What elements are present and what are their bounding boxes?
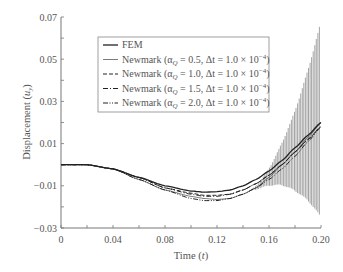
x-tick-label: 0.12 xyxy=(208,234,226,245)
legend-label: Newmark (αQ = 2.0, Δt = 1.0 × 10−4) xyxy=(122,96,270,110)
y-tick-label: 0.07 xyxy=(40,12,58,23)
legend: FEMNewmark (αQ = 0.5, Δt = 1.0 × 10−4)Ne… xyxy=(98,37,270,112)
legend-label: Newmark (αQ = 1.5, Δt = 1.0 × 10−4) xyxy=(122,82,270,96)
x-tick-label: 0 xyxy=(59,234,64,245)
legend-label: Newmark (αQ = 0.5, Δt = 1.0 × 10−4) xyxy=(122,53,270,67)
x-tick-label: 0.20 xyxy=(312,234,330,245)
y-tick-label: 0.05 xyxy=(40,54,58,65)
legend-label: Newmark (αQ = 1.0, Δt = 1.0 × 10−4) xyxy=(122,67,270,81)
x-axis-title: Time (t) xyxy=(174,250,209,262)
y-tick-label: 0.03 xyxy=(40,96,58,107)
y-tick-label: −0.01 xyxy=(34,180,57,191)
legend-label: FEM xyxy=(122,39,143,50)
x-tick-label: 0.08 xyxy=(156,234,174,245)
x-tick-label: 0.04 xyxy=(104,234,122,245)
x-tick-label: 0.16 xyxy=(260,234,278,245)
displacement-chart: 00.040.080.120.160.20−0.03−0.010.010.030… xyxy=(0,0,343,272)
y-axis-title: Displacement (uy) xyxy=(21,84,34,160)
y-tick-label: −0.03 xyxy=(34,223,57,234)
y-tick-label: 0.01 xyxy=(40,138,58,149)
